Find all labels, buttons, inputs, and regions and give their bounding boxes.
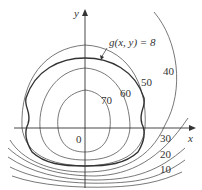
- contour-70: [58, 90, 111, 152]
- contour-diagram: [0, 0, 202, 190]
- level-curves: [8, 12, 188, 187]
- contour-30: [8, 118, 188, 176]
- x-axis-arrow-icon: [189, 125, 196, 131]
- y-axis-arrow-icon: [82, 9, 88, 16]
